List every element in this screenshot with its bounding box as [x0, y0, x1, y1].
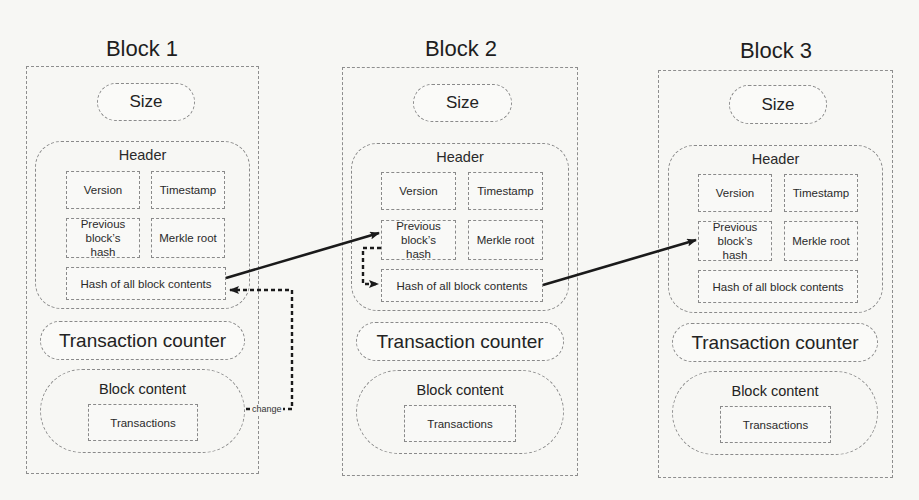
- block-content-label: Block content: [673, 383, 877, 399]
- block-title: Block 3: [696, 38, 856, 64]
- header-label: Header: [36, 147, 249, 163]
- transactions-field: Transactions: [720, 406, 831, 443]
- block-title: Block 2: [381, 36, 541, 62]
- size-field: Size: [729, 85, 827, 124]
- size-field: Size: [413, 84, 512, 122]
- version-field: Version: [66, 171, 140, 209]
- block-content-label: Block content: [357, 382, 563, 398]
- transactions-field: Transactions: [88, 404, 198, 441]
- timestamp-field: Timestamp: [468, 172, 543, 210]
- transaction-counter-field: Transaction counter: [40, 321, 245, 360]
- header-label: Header: [669, 151, 882, 167]
- hash-all-contents-field: Hash of all block contents: [381, 269, 543, 302]
- previous-hash-field: Previous block’s hash: [66, 218, 140, 258]
- merkle-root-field: Merkle root: [468, 220, 543, 260]
- previous-hash-field: Previous block’s hash: [381, 220, 456, 260]
- size-field: Size: [97, 83, 195, 121]
- hash-all-contents-field: Hash of all block contents: [698, 270, 858, 303]
- transactions-field: Transactions: [404, 405, 516, 442]
- version-field: Version: [698, 174, 772, 212]
- version-field: Version: [381, 172, 456, 210]
- transaction-counter-field: Transaction counter: [356, 322, 564, 361]
- timestamp-field: Timestamp: [151, 171, 225, 209]
- previous-hash-field: Previous block’s hash: [698, 221, 772, 261]
- header-label: Header: [352, 149, 568, 165]
- block-content-label: Block content: [41, 381, 244, 397]
- merkle-root-field: Merkle root: [151, 218, 225, 258]
- block-title: Block 1: [62, 36, 222, 62]
- hash-all-contents-field: Hash of all block contents: [66, 267, 226, 300]
- timestamp-field: Timestamp: [784, 174, 858, 212]
- merkle-root-field: Merkle root: [784, 221, 858, 261]
- change-label: change: [251, 404, 283, 414]
- transaction-counter-field: Transaction counter: [672, 323, 878, 362]
